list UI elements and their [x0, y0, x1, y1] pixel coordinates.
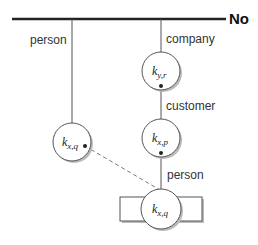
node-top-dot	[159, 84, 163, 88]
node-left-dot	[83, 144, 87, 148]
edge-label-company: company	[166, 32, 215, 46]
node-middle-dot	[159, 151, 163, 155]
edge-label-person-left: person	[30, 33, 67, 47]
root-label: No	[229, 10, 249, 27]
diagram-canvas: No person company customer person ky,r k…	[0, 0, 258, 245]
edge-label-customer: customer	[166, 99, 215, 113]
edge-label-person: person	[167, 168, 204, 182]
